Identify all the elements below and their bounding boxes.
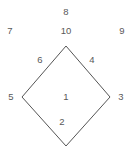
label-1: 1: [63, 92, 68, 102]
label-7: 7: [7, 26, 12, 36]
label-4: 4: [89, 55, 94, 65]
rhombus-shape: [0, 0, 132, 147]
label-5: 5: [8, 92, 13, 102]
label-6: 6: [37, 55, 42, 65]
label-8: 8: [63, 7, 68, 17]
label-2: 2: [59, 117, 64, 127]
label-10: 10: [61, 26, 72, 36]
diagram-canvas: 8 7 10 9 6 4 5 1 3 2: [0, 0, 132, 147]
label-9: 9: [119, 26, 124, 36]
label-3: 3: [118, 92, 123, 102]
